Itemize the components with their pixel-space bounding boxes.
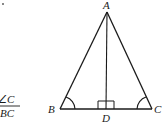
altitude-ad: [106, 12, 107, 109]
angle-arc-c: [137, 97, 146, 109]
side-ab: [60, 12, 107, 109]
top-left-mark: [2, 3, 4, 5]
triangle-diagram: A B C D ∠C BC: [0, 0, 164, 123]
label-b: B: [48, 103, 55, 115]
label-c: C: [154, 103, 162, 115]
fraction-numerator: ∠C: [0, 93, 15, 105]
label-a: A: [102, 0, 110, 11]
side-ac: [107, 12, 152, 109]
label-d: D: [101, 112, 110, 123]
fraction-denominator: BC: [0, 107, 15, 119]
angle-arc-b: [66, 97, 75, 109]
